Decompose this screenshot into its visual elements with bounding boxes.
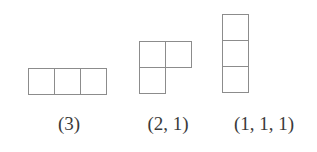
partition-label-2-1: (2, 1) — [127, 114, 209, 133]
diagram-row — [222, 40, 248, 67]
diagram-row — [222, 14, 248, 41]
young-cell — [222, 40, 249, 67]
partition-label-3: (3) — [28, 114, 110, 133]
young-diagram-2-1 — [139, 41, 191, 94]
young-diagram-1-1-1 — [222, 14, 248, 93]
young-diagram-figure: (3) (2, 1) (1, 1, 1) — [0, 0, 317, 152]
young-cell — [222, 14, 249, 41]
young-diagram-3 — [28, 68, 106, 95]
diagram-row — [139, 67, 191, 94]
young-cell — [165, 41, 192, 68]
young-cell — [222, 66, 249, 93]
young-cell — [80, 68, 107, 95]
young-cell — [139, 41, 166, 68]
young-cell — [139, 67, 166, 94]
partition-label-1-1-1: (1, 1, 1) — [216, 114, 312, 133]
diagram-row — [139, 41, 191, 68]
diagram-row — [28, 68, 106, 95]
young-cell — [54, 68, 81, 95]
young-cell — [28, 68, 55, 95]
diagram-row — [222, 66, 248, 93]
